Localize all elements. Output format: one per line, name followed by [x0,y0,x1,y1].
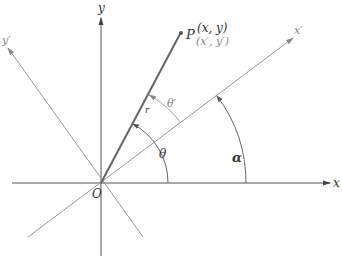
x-prime-axis-label: x′ [294,25,303,36]
point-coords: (x, y) [197,22,228,34]
x-axis-label: x [333,177,340,189]
radius-label: r [145,106,149,115]
point-p-dot [179,31,183,35]
theta-prime-label: θ′ [167,98,176,109]
point-p-label: P [186,28,195,41]
alpha-arc [217,96,246,183]
diagram-canvas [0,0,342,258]
theta-label: θ [159,148,166,160]
alpha-label: α [232,151,242,164]
point-coords-prime: (x′, y′) [196,36,229,47]
x-prime-axis [28,38,293,237]
origin-label: O [92,188,102,200]
y-axis-label: y [98,2,105,14]
rotation-diagram: y x x′ y′ O P (x, y) (x′, y′) r θ θ′ α [0,0,342,258]
theta-prime-arc [149,95,181,123]
y-prime-axis-label: y′ [2,35,11,46]
